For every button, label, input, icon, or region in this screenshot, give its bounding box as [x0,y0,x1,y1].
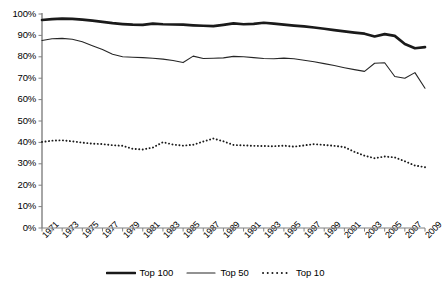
legend-label: Top 50 [220,268,249,278]
legend-label: Top 100 [140,268,174,278]
legend-swatch-top-10 [262,268,292,278]
legend-swatch-top-50 [186,268,216,278]
chart-legend: Top 100Top 50Top 10 [0,268,430,278]
legend-item-top-10[interactable]: Top 10 [262,268,325,278]
series-line-top-50 [42,38,425,88]
series-line-top-10 [42,139,425,168]
legend-item-top-100[interactable]: Top 100 [106,268,174,278]
legend-swatch-top-100 [106,268,136,278]
series-line-top-100 [42,19,425,49]
legend-item-top-50[interactable]: Top 50 [186,268,249,278]
legend-label: Top 10 [296,268,325,278]
